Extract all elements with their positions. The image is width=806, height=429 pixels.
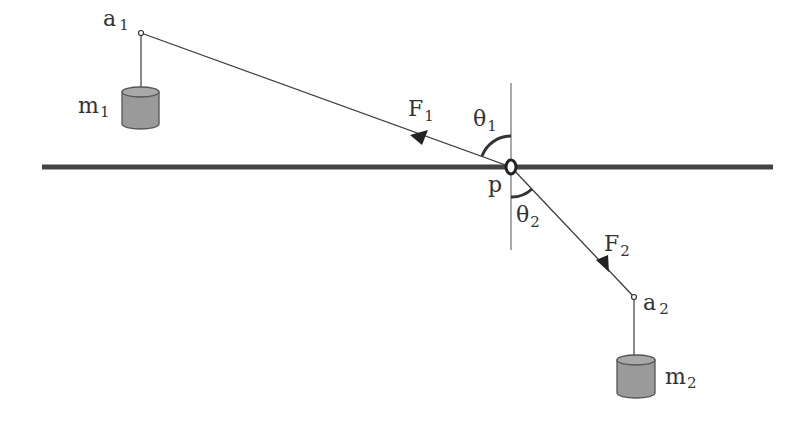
label-theta2: θ2 [516,202,540,231]
theta-1-arc [482,136,511,156]
label-a2: a2 [643,290,669,318]
label-pivot-p: p [488,172,502,197]
label-F2: F2 [604,231,630,260]
pulley-force-diagram: a1 m1 F1 θ1 p θ2 F2 a2 m2 [0,0,806,429]
weight-m2 [617,355,655,398]
label-F1: F1 [408,96,434,125]
pivot-ring [506,160,516,174]
label-m1: m1 [78,93,109,121]
theta-2-arc [511,189,532,197]
pin-a2 [632,295,637,300]
pin-a1 [139,31,144,36]
force-1-arrowhead [410,130,428,145]
weight-m1 [122,87,159,129]
string-1 [141,33,511,167]
force-2-arrowhead [596,255,609,272]
label-m2: m2 [665,364,696,392]
label-a1: a1 [103,6,129,34]
label-theta1: θ1 [473,106,497,135]
